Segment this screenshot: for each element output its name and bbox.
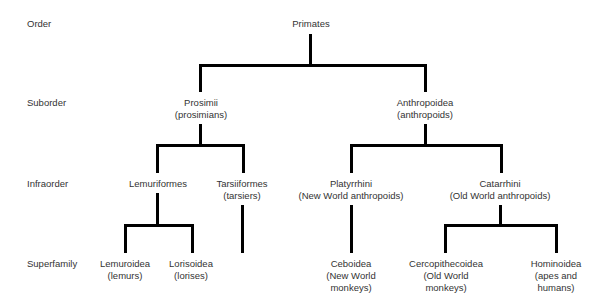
- node-common-name: (lorises): [169, 270, 213, 282]
- node-anthropoidea: Anthropoidea (anthropoids): [397, 97, 454, 121]
- node-name: Prosimii: [175, 97, 227, 109]
- node-common-name: (New World anthropoids): [299, 190, 404, 202]
- connector-catarrhini-drop: [500, 144, 503, 173]
- node-name: Platyrrhini: [299, 178, 404, 190]
- node-platyrrhini: Platyrrhini (New World anthropoids): [299, 178, 404, 202]
- node-name: Catarrhini: [450, 178, 551, 190]
- node-common-name: (lemurs): [100, 270, 150, 282]
- node-name: Lemuroidea: [100, 258, 150, 270]
- rank-label-infraorder: Infraorder: [27, 178, 68, 189]
- node-catarrhini: Catarrhini (Old World anthropoids): [450, 178, 551, 202]
- node-common-name: (Old World anthropoids): [450, 190, 551, 202]
- rank-label-superfamily: Superfamily: [27, 258, 77, 269]
- connector-tarsiiformes-drop: [242, 144, 245, 173]
- connector-anthropoidea-drop: [424, 64, 427, 92]
- node-lemuroidea: Lemuroidea (lemurs): [100, 258, 150, 282]
- node-common-name: (tarsiers): [216, 190, 267, 202]
- node-tarsiiformes: Tarsiiformes (tarsiers): [216, 178, 267, 202]
- connector-lemuroidea-drop: [124, 224, 127, 253]
- node-common-name-cont: humans): [531, 282, 582, 294]
- node-lemuriformes: Lemuriformes: [129, 178, 187, 190]
- node-name: Lemuriformes: [129, 178, 187, 190]
- node-name: Cercopithecoidea: [409, 258, 483, 270]
- node-common-name: (anthropoids): [397, 109, 454, 121]
- node-common-name: (New World: [326, 270, 375, 282]
- connector-lemuriformes-bar: [124, 224, 194, 227]
- connector-hominoidea-drop: [555, 224, 558, 253]
- connector-catarrhini-bar: [444, 224, 558, 227]
- node-name: Anthropoidea: [397, 97, 454, 109]
- node-lorisoidea: Lorisoidea (lorises): [169, 258, 213, 282]
- connector-lemuriformes-drop: [156, 144, 159, 173]
- node-ceboidea: Ceboidea (New World monkeys): [326, 258, 375, 294]
- connector-lorisoidea-drop: [191, 224, 194, 253]
- node-name: Hominoidea: [531, 258, 582, 270]
- connector-tarsiiformes-stem: [241, 205, 244, 253]
- connector-prosimii-drop: [199, 64, 202, 92]
- connector-primates-bar: [199, 64, 427, 67]
- node-hominoidea: Hominoidea (apes and humans): [531, 258, 582, 294]
- node-name: Tarsiiformes: [216, 178, 267, 190]
- node-cercopithecoidea: Cercopithecoidea (Old World monkeys): [409, 258, 483, 294]
- connector-prosimii-bar: [156, 144, 245, 147]
- node-common-name-cont: monkeys): [409, 282, 483, 294]
- node-name: Lorisoidea: [169, 258, 213, 270]
- node-primates: Primates: [292, 18, 329, 30]
- node-name: Ceboidea: [326, 258, 375, 270]
- node-common-name: (apes and: [531, 270, 582, 282]
- node-common-name-cont: monkeys): [326, 282, 375, 294]
- node-name: Primates: [292, 18, 329, 30]
- node-common-name: (prosimians): [175, 109, 227, 121]
- connector-lemuriformes-stem: [156, 193, 159, 227]
- connector-anthropoidea-bar: [350, 144, 503, 147]
- connector-cercopithecoidea-drop: [444, 224, 447, 253]
- rank-label-order: Order: [27, 18, 51, 29]
- rank-label-suborder: Suborder: [27, 97, 66, 108]
- node-prosimii: Prosimii (prosimians): [175, 97, 227, 121]
- node-common-name: (Old World: [409, 270, 483, 282]
- connector-platyrrhini-drop: [350, 144, 353, 173]
- connector-platyrrhini-stem: [350, 205, 353, 253]
- connector-primates-stem: [309, 34, 312, 67]
